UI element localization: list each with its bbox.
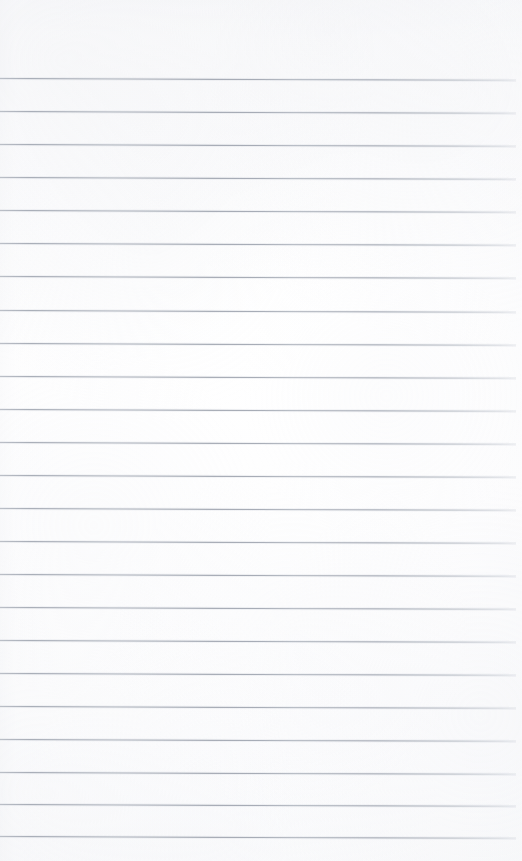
scanned-page	[0, 0, 522, 861]
paper-background	[0, 0, 522, 861]
